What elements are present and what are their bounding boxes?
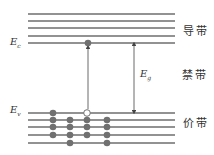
valence-band-label: 价带 bbox=[183, 114, 209, 130]
electron bbox=[84, 117, 91, 124]
electron bbox=[84, 124, 91, 131]
electron bbox=[50, 124, 57, 131]
Eg-label: Eg bbox=[140, 68, 151, 81]
Ev-label: Ev bbox=[10, 104, 21, 117]
electron bbox=[104, 117, 111, 124]
electron bbox=[67, 124, 74, 131]
electron bbox=[104, 124, 111, 131]
electron bbox=[67, 132, 74, 139]
electron bbox=[104, 140, 111, 147]
electron bbox=[50, 132, 57, 139]
electron bbox=[84, 132, 91, 139]
hole bbox=[84, 110, 91, 117]
forbidden-band-label: 禁带 bbox=[182, 66, 208, 82]
electron bbox=[50, 110, 57, 117]
electron bbox=[50, 117, 57, 124]
electron bbox=[67, 140, 74, 147]
conduction-band-label: 导带 bbox=[183, 22, 209, 38]
electron bbox=[104, 132, 111, 139]
conduction-band-levels bbox=[28, 14, 175, 43]
electron bbox=[67, 117, 74, 124]
valence-electrons bbox=[50, 110, 111, 147]
excited-electron bbox=[85, 40, 92, 47]
Ec-label: Ec bbox=[10, 36, 21, 49]
